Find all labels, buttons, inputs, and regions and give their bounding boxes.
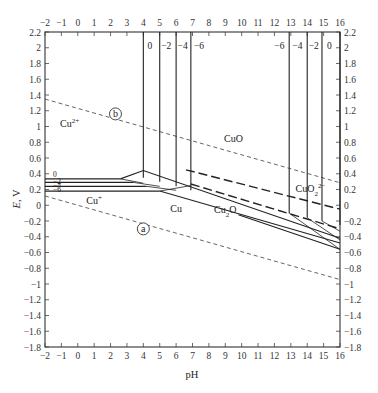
y-tick-label-left: 2.2 — [29, 28, 41, 38]
y-tick-label-left: 2 — [36, 43, 41, 53]
chart-labels: Cu2+Cu+CuOCuO22−Cu2OCuba0−2−4−60−2−4−6−6… — [53, 41, 332, 235]
x-tick-label-top: 9 — [223, 18, 228, 28]
y-tick-label-right: −0.6 — [344, 248, 361, 258]
y-tick-label-right: −1.2 — [344, 295, 361, 305]
x-tick-label-top: −1 — [56, 18, 66, 28]
x-tick-label-top: 0 — [75, 18, 80, 28]
y-tick-label-right: −1.8 — [344, 343, 361, 353]
transition-line — [147, 186, 177, 190]
x-tick-label-bottom: 12 — [270, 351, 280, 361]
concentration-label-top-right: −6 — [274, 41, 284, 51]
y-tick-label-left: −0.8 — [24, 264, 41, 274]
y-tick-label-right: 2.2 — [344, 28, 356, 38]
x-tick-label-top: 13 — [286, 18, 296, 28]
y-tick-label-right: 0 — [344, 201, 349, 211]
region-label: Cu+ — [86, 194, 102, 206]
concentration-label-top-left: −6 — [194, 41, 204, 51]
water-line-marker-label: b — [113, 108, 118, 119]
x-tick-label-bottom: 6 — [174, 351, 179, 361]
x-tick-label-bottom: 11 — [253, 351, 262, 361]
x-tick-label-top: 10 — [237, 18, 247, 28]
x-tick-label-bottom: 0 — [75, 351, 80, 361]
y-tick-label-left: 1 — [36, 122, 41, 132]
y-tick-label-right: 1.4 — [344, 91, 356, 101]
water-line-b — [45, 99, 340, 183]
x-tick-label-bottom: 3 — [125, 351, 130, 361]
y-tick-label-right: −0.4 — [344, 232, 361, 242]
y-axis-title: E, V — [11, 189, 22, 209]
y-tick-label-left: 0.8 — [29, 138, 41, 148]
x-tick-label-bottom: 15 — [319, 351, 329, 361]
y-tick-label-right: −0.2 — [344, 217, 361, 227]
y-tick-label-left: 0.4 — [29, 169, 41, 179]
region-label: CuO — [224, 133, 243, 144]
x-tick-label-bottom: 2 — [108, 351, 113, 361]
x-tick-label-bottom: −2 — [40, 351, 50, 361]
y-tick-label-left: −1.8 — [24, 343, 41, 353]
y-tick-label-left: −1.2 — [24, 295, 41, 305]
y-tick-label-right: 1.8 — [344, 59, 356, 69]
y-tick-label-left: 1.6 — [29, 75, 41, 85]
x-tick-label-top: 7 — [190, 18, 195, 28]
transition-line — [134, 182, 160, 186]
y-tick-label-right: 1 — [344, 122, 349, 132]
region-label: Cu — [170, 203, 182, 214]
x-tick-label-bottom: 8 — [207, 351, 212, 361]
y-tick-label-left: 0.2 — [29, 185, 41, 195]
y-tick-label-right: 0.6 — [344, 154, 356, 164]
y-tick-label-right: 0.4 — [344, 169, 356, 179]
y-tick-label-left: 0.6 — [29, 154, 41, 164]
y-tick-label-right: 1.6 — [344, 75, 356, 85]
x-tick-label-top: 11 — [253, 18, 262, 28]
boundary-lines — [45, 32, 340, 280]
x-tick-label-top: 4 — [141, 18, 146, 28]
x-tick-label-bottom: 9 — [223, 351, 228, 361]
concentration-label-top-left: 0 — [148, 41, 153, 51]
x-tick-label-bottom: 5 — [157, 351, 162, 361]
pourbaix-diagram: −2−2−1−100112233445566778899101011111212… — [0, 0, 378, 393]
y-tick-label-left: −1 — [31, 280, 41, 290]
region-label: CuO22− — [296, 182, 326, 198]
y-tick-label-right: 0.8 — [344, 138, 356, 148]
x-tick-label-bottom: 13 — [286, 351, 296, 361]
x-tick-label-bottom: −1 — [56, 351, 66, 361]
y-tick-label-right: −1.4 — [344, 311, 361, 321]
x-tick-label-top: 2 — [108, 18, 113, 28]
concentration-label-top-right: 0 — [327, 41, 332, 51]
x-tick-label-bottom: 16 — [335, 351, 345, 361]
x-tick-label-top: 1 — [92, 18, 97, 28]
x-tick-label-top: 12 — [270, 18, 280, 28]
y-tick-label-right: 1.2 — [344, 106, 356, 116]
y-tick-label-left: −1.6 — [24, 327, 41, 337]
x-tick-label-bottom: 1 — [92, 351, 97, 361]
x-tick-label-bottom: 4 — [141, 351, 146, 361]
x-tick-label-top: 8 — [207, 18, 212, 28]
concentration-label-top-right: −4 — [292, 41, 302, 51]
concentration-label-top-left: −4 — [178, 41, 188, 51]
y-tick-label-left: −1.4 — [24, 311, 41, 321]
y-tick-label-right: 0.2 — [344, 185, 356, 195]
transition-line — [289, 213, 340, 249]
x-tick-label-top: −2 — [40, 18, 50, 28]
x-tick-label-top: 3 — [125, 18, 130, 28]
water-line-a — [45, 196, 340, 280]
x-tick-label-top: 6 — [174, 18, 179, 28]
concentration-label-left: −6 — [53, 185, 61, 194]
x-tick-label-bottom: 14 — [302, 351, 312, 361]
x-axis-title: pH — [186, 369, 199, 380]
y-tick-label-left: 1.8 — [29, 59, 41, 69]
region-label: Cu2O — [214, 204, 236, 219]
boundary-line — [238, 215, 340, 250]
x-tick-label-bottom: 10 — [237, 351, 247, 361]
x-tick-label-top: 16 — [335, 18, 345, 28]
y-tick-label-left: 1.4 — [29, 91, 41, 101]
x-tick-label-bottom: 7 — [190, 351, 195, 361]
x-tick-label-top: 15 — [319, 18, 329, 28]
concentration-label-top-right: −2 — [309, 41, 319, 51]
concentration-label-top-left: −2 — [161, 41, 171, 51]
y-tick-label-right: 2 — [344, 43, 349, 53]
x-tick-label-top: 14 — [302, 18, 312, 28]
y-tick-label-right: −1.6 — [344, 327, 361, 337]
y-tick-label-left: −0.2 — [24, 217, 41, 227]
water-line-marker-label: a — [141, 223, 146, 234]
